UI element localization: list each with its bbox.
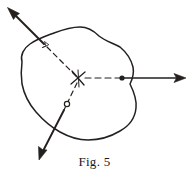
figure-caption: Fig. 5: [0, 154, 189, 170]
upper-left-ray-dashed-segment: [44, 44, 76, 76]
figure-container: Fig. 5: [0, 0, 189, 177]
lower-left-ray-circle-marker-icon: [64, 101, 69, 106]
center-cross-icon: [71, 70, 85, 87]
lower-left-ray-solid-segment: [42, 110, 64, 153]
figure-drawing: [0, 0, 189, 177]
